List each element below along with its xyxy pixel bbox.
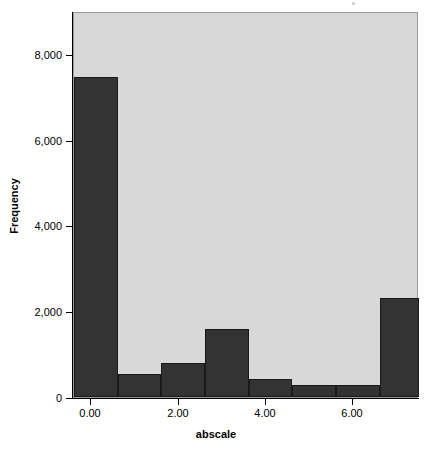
bars-layer	[74, 13, 417, 397]
y-axis-tick	[66, 141, 72, 142]
histogram-bar	[249, 379, 293, 397]
x-axis-tick	[178, 399, 179, 405]
y-axis-tick	[66, 55, 72, 56]
y-axis-tick	[66, 398, 72, 399]
y-axis-tick	[66, 312, 72, 313]
x-axis-tick-label: 0.00	[79, 408, 100, 419]
y-axis-tick-label: 6,000	[34, 136, 62, 147]
histogram-figure: 02,0004,0006,0008,000 0.002.004.006.00 F…	[0, 0, 432, 454]
x-axis-tick-label: 2.00	[167, 408, 188, 419]
histogram-bar	[74, 77, 118, 397]
histogram-bar	[380, 298, 419, 397]
scan-artifact-speck	[352, 2, 355, 5]
y-axis-tick-label: 4,000	[34, 221, 62, 232]
x-axis-tick	[90, 399, 91, 405]
histogram-bar	[292, 385, 336, 397]
histogram-bar	[161, 363, 205, 397]
x-axis-tick	[265, 399, 266, 405]
histogram-bar	[118, 374, 162, 397]
histogram-bar	[205, 329, 249, 397]
x-axis-tick	[352, 399, 353, 405]
y-axis-tick-label: 8,000	[34, 50, 62, 61]
x-axis-tick-label: 6.00	[341, 408, 362, 419]
x-axis-line	[72, 398, 419, 399]
plot-panel	[73, 12, 418, 398]
y-axis-tick-label: 2,000	[34, 307, 62, 318]
y-axis-tick	[66, 226, 72, 227]
x-axis-title: abscale	[0, 428, 432, 440]
histogram-bar	[336, 385, 380, 397]
y-axis-title: Frequency	[8, 171, 20, 241]
y-axis-line	[72, 12, 73, 399]
x-axis-tick-label: 4.00	[254, 408, 275, 419]
y-axis-tick-label: 0	[56, 393, 62, 404]
